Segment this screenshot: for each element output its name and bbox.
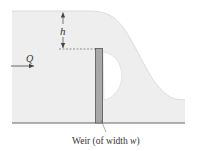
- flow-rate-label: Q: [26, 53, 34, 64]
- head-label: h: [60, 25, 66, 37]
- weir-caption: Weir (of width w): [72, 136, 140, 147]
- weir-caption-suffix: ): [136, 136, 139, 147]
- weir-caption-prefix: Weir (of width: [72, 136, 130, 147]
- weir-plate: [96, 49, 103, 124]
- weir-diagram: h Q Weir (of width w): [0, 0, 198, 151]
